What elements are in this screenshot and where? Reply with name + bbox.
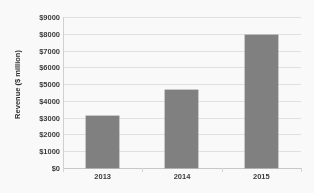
bar-2013 [86,116,119,168]
bar-slot [222,17,301,168]
y-axis-title: Revenue ($ million) [10,0,24,168]
bars-layer [63,17,301,168]
x-tick-label: 2015 [222,172,301,181]
y-tick-label: $3000 [24,113,60,122]
y-tick-label: $4000 [24,96,60,105]
x-tick-mark [301,168,302,172]
y-axis-tick-labels: $0$1000$2000$3000$4000$5000$6000$7000$80… [24,17,60,168]
bar-2015 [245,35,278,168]
y-tick-label: $2000 [24,130,60,139]
x-tick-label: 2013 [63,172,142,181]
y-tick-label: $6000 [24,63,60,72]
bar-slot [63,17,142,168]
y-tick-label: $0 [24,164,60,173]
x-tick-label: 2014 [142,172,221,181]
bar-slot [142,17,221,168]
y-tick-label: $5000 [24,80,60,89]
x-axis-tick-labels: 201320142015 [63,172,301,181]
y-axis-title-text: Revenue ($ million) [13,50,22,119]
y-tick-label: $9000 [24,13,60,22]
y-tick-label: $7000 [24,46,60,55]
y-tick-label: $8000 [24,29,60,38]
y-tick-label: $1000 [24,147,60,156]
plot-area [63,17,301,168]
bar-2014 [165,90,198,168]
bar-chart-figure: Revenue ($ million) $0$1000$2000$3000$40… [0,0,314,193]
